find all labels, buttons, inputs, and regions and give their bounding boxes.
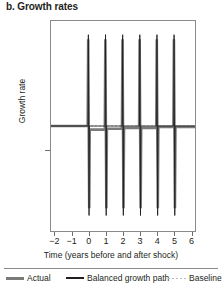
legend-swatch-actual-icon xyxy=(6,277,24,280)
legend-label-baseline: Baseline xyxy=(189,273,222,283)
y-axis-label: Growth rate xyxy=(17,41,27,161)
chart-title: b. Growth rates xyxy=(6,1,78,12)
legend-item-baseline: Baseline xyxy=(168,273,222,283)
legend-swatch-balanced-growth-path-icon xyxy=(66,277,84,279)
plot-series-svg xyxy=(51,21,195,231)
legend-item-actual: Actual xyxy=(6,273,51,283)
legend-item-balanced-growth-path: Balanced growth path xyxy=(66,273,169,283)
x-axis-tick-labels: −2−10123456 xyxy=(50,236,196,249)
legend-label-actual: Actual xyxy=(27,273,51,283)
x-axis-tick-label: 6 xyxy=(181,236,203,246)
x-axis-label: Time (years before and after shock) xyxy=(0,250,222,260)
legend-swatch-baseline-icon xyxy=(168,277,186,279)
legend: Actual Balanced growth path Baseline xyxy=(4,273,218,287)
legend-label-balanced-growth-path: Balanced growth path xyxy=(87,273,169,283)
figure-growth-rates: b. Growth rates Growth rate −2−10123456 … xyxy=(0,0,222,290)
legend-separator xyxy=(4,268,218,269)
plot-area xyxy=(50,20,196,232)
